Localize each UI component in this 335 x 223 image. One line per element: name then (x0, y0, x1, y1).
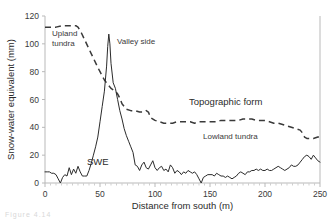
x-tick-label-200: 200 (258, 189, 272, 199)
chart-canvas: 020406080100120 050100150200250 Distance… (0, 0, 335, 223)
x-tick-label-100: 100 (148, 189, 162, 199)
annotation-lowland-tundra: Lowland tundra (203, 132, 258, 141)
annotation-upland-tundra-line1: Upland (52, 29, 77, 38)
y-axis-title: Snow-water equivalent (mm) (5, 39, 16, 160)
y-axis-ticks: 020406080100120 (25, 11, 45, 188)
x-axis-title: Distance from south (m) (132, 200, 233, 211)
x-tick-label-50: 50 (95, 189, 105, 199)
annotation-upland-tundra-line2: tundra (52, 39, 75, 48)
annotation-valley-side: Valley side (117, 37, 156, 46)
y-tick-label-20: 20 (30, 150, 40, 160)
x-tick-label-0: 0 (43, 189, 48, 199)
figure-container: 020406080100120 050100150200250 Distance… (0, 0, 335, 223)
y-tick-label-0: 0 (34, 178, 39, 188)
x-tick-label-250: 250 (313, 189, 327, 199)
annotation-swe: SWE (87, 156, 109, 167)
annotation-topographic-form: Topographic form (189, 96, 262, 107)
y-tick-label-120: 120 (25, 11, 39, 21)
y-tick-label-80: 80 (30, 67, 40, 77)
x-axis-ticks: 050100150200250 (43, 183, 328, 199)
x-tick-label-150: 150 (203, 189, 217, 199)
y-tick-label-40: 40 (30, 122, 40, 132)
caption-fragment: Figure 4.14 (5, 211, 51, 218)
y-tick-label-60: 60 (30, 95, 40, 105)
y-tick-label-100: 100 (25, 39, 39, 49)
